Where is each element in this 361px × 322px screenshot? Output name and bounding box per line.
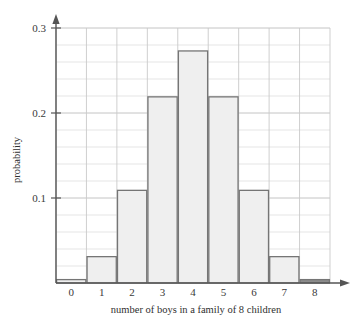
bar-7 (270, 257, 299, 283)
x-axis-arrow-icon (340, 279, 350, 286)
chart-canvas: 0.10.20.3 012345678 probability number o… (0, 0, 361, 322)
x-tick-label: 0 (68, 286, 74, 298)
bars-group (57, 51, 330, 283)
x-tick-label: 1 (99, 286, 105, 298)
bar-4 (178, 51, 207, 283)
x-axis-title: number of boys in a family of 8 children (111, 304, 282, 315)
probability-histogram-chart: 0.10.20.3 012345678 probability number o… (0, 0, 361, 322)
x-tick-label: 4 (190, 286, 196, 298)
x-tick-label: 8 (312, 286, 318, 298)
x-tick-label: 6 (251, 286, 257, 298)
y-tick-label: 0.3 (32, 22, 46, 34)
y-tick-label: 0.1 (32, 192, 46, 204)
bar-3 (148, 97, 177, 283)
x-tick-label: 7 (282, 286, 288, 298)
x-tick-label: 3 (160, 286, 166, 298)
x-tick-label: 5 (221, 286, 227, 298)
bar-2 (117, 190, 146, 283)
x-tick-label: 2 (129, 286, 135, 298)
bar-5 (209, 97, 238, 283)
bar-1 (87, 257, 116, 283)
bar-6 (239, 190, 268, 283)
y-axis-arrow-icon (52, 14, 59, 24)
y-tick-label: 0.2 (32, 107, 46, 119)
x-axis-ticks: 012345678 (68, 286, 318, 298)
y-axis-title: probability (11, 136, 22, 183)
